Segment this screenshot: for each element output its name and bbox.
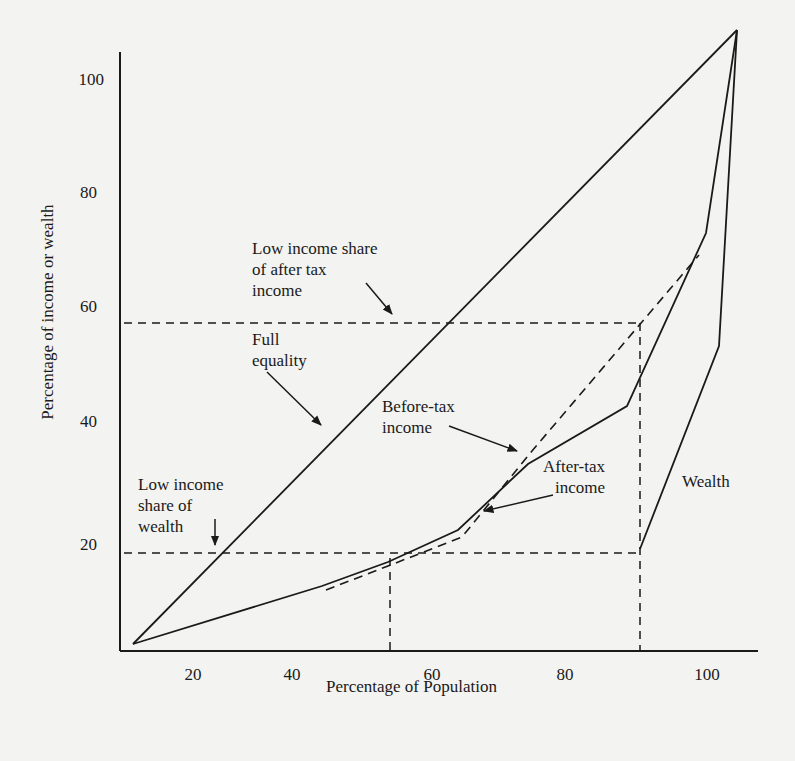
y-axis-title: Percentage of income or wealth	[38, 182, 58, 442]
lorenz-chart: 100 80 60 40 20 20 40 60 80 100 Percenta…	[0, 0, 795, 761]
full-equality-line	[133, 30, 737, 644]
y-tick-20: 20	[57, 535, 97, 555]
y-tick-80: 80	[57, 183, 97, 203]
y-tick-100: 100	[64, 70, 104, 90]
annotation-before-tax: Before-tax income	[382, 396, 455, 438]
x-tick-80: 80	[545, 665, 585, 685]
annotation-wealth-share: Low income share of wealth	[138, 474, 223, 537]
x-tick-20: 20	[173, 665, 213, 685]
annotation-line: Before-tax	[382, 396, 455, 417]
x-tick-100: 100	[687, 665, 727, 685]
annotation-line: Low income share	[252, 238, 378, 259]
annotation-line: share of	[138, 495, 223, 516]
arrow-full-equality	[267, 372, 321, 425]
chart-plot-area	[0, 0, 795, 761]
annotation-line: of after tax	[252, 259, 378, 280]
annotation-line: equality	[252, 350, 307, 371]
annotation-line: Low income	[138, 474, 223, 495]
annotation-after-tax-share: Low income share of after tax income	[252, 238, 378, 301]
arrow-before-tax	[449, 426, 517, 451]
annotation-line: income	[252, 280, 378, 301]
y-tick-40: 40	[57, 412, 97, 432]
annotation-line: income	[541, 477, 605, 498]
annotation-wealth: Wealth	[682, 471, 730, 492]
annotation-full-equality: Full equality	[252, 329, 307, 371]
x-axis-title: Percentage of Population	[326, 677, 497, 697]
annotation-line: income	[382, 417, 455, 438]
y-tick-60: 60	[57, 297, 97, 317]
annotation-line: Full	[252, 329, 307, 350]
annotation-after-tax: After-tax income	[541, 456, 605, 498]
annotation-line: After-tax	[541, 456, 605, 477]
annotation-line: wealth	[138, 516, 223, 537]
x-tick-40: 40	[272, 665, 312, 685]
